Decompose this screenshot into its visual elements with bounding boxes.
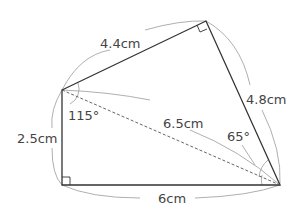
brace-bc-lower	[262, 110, 280, 185]
right-angle-b	[197, 25, 207, 32]
label-dc: 6cm	[158, 191, 186, 206]
angle-c-leader	[242, 145, 255, 165]
brace-ad-lower	[52, 148, 62, 185]
label-angle-c: 65°	[227, 129, 250, 144]
label-ad: 2.5cm	[17, 131, 58, 146]
brace-ac	[62, 90, 150, 100]
label-angle-a: 115°	[68, 108, 99, 123]
brace-bc	[206, 21, 250, 85]
brace-dc-left	[62, 185, 140, 198]
label-ac: 6.5cm	[163, 116, 204, 131]
right-angle-d	[62, 177, 70, 185]
label-bc: 4.8cm	[246, 92, 287, 107]
label-ab: 4.4cm	[100, 36, 141, 51]
brace-ad	[52, 90, 62, 128]
quadrilateral-diagram: 4.4cm 4.8cm 2.5cm 6cm 6.5cm 115° 65°	[0, 0, 302, 213]
brace-dc-right	[195, 185, 280, 198]
